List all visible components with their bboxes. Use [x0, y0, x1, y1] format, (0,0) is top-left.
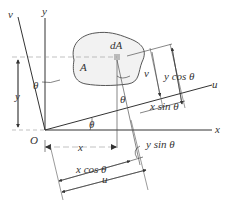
v-dim-label: v	[144, 67, 149, 79]
area-label: A	[79, 61, 87, 73]
v-axis-label: v	[8, 8, 13, 20]
u-dim-label: u	[102, 173, 108, 185]
y-dim-label: y	[14, 90, 20, 102]
u-axis-label: u	[212, 78, 218, 90]
v-axis	[18, 17, 45, 130]
theta-label-1: θ	[33, 79, 39, 91]
u-axis	[45, 85, 212, 130]
diagram-canvas: v y x u O A dA θ θ θ y x v y cos θ x sin…	[0, 0, 225, 218]
origin-label: O	[30, 134, 38, 146]
element-label: dA	[110, 39, 123, 51]
theta-label-3: θ	[120, 93, 126, 105]
axes-diagram: v y x u O A dA θ θ θ y x v y cos θ x sin…	[0, 0, 225, 218]
x-axis-label: x	[214, 123, 220, 135]
x-sin-label: x sin θ	[149, 100, 179, 112]
area-region	[73, 32, 144, 85]
y-cos-label: y cos θ	[163, 70, 195, 82]
theta-label-2: θ	[89, 118, 95, 130]
x-dim-label: x	[77, 141, 83, 153]
y-axis-label: y	[41, 5, 47, 17]
y-sin-label: y sin θ	[145, 138, 175, 150]
